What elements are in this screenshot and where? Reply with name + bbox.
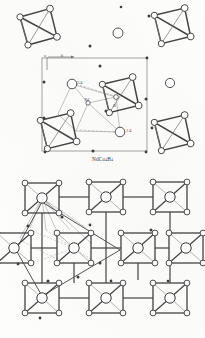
atom-b xyxy=(99,65,102,68)
atom-nd-isolated-right xyxy=(165,78,174,87)
cluster-mid-right xyxy=(150,111,194,155)
a-axis-label: a xyxy=(44,53,46,58)
atom-b xyxy=(145,151,148,154)
atom-b xyxy=(89,224,92,227)
cluster-r1-c1 xyxy=(118,230,158,266)
atom-b xyxy=(27,225,30,228)
atom-b xyxy=(151,127,154,130)
atom-b xyxy=(167,280,170,283)
atom-nd-three-quarter xyxy=(67,79,77,89)
panel-ceco4b4: a b Ce B CeCo4B4 xyxy=(0,168,205,338)
atom-b xyxy=(148,15,151,18)
caption-ndco4b4: NdCo4B4 xyxy=(0,156,205,162)
panel-ndco4b4: a b 3/4 1/4 Nd B NdCo4B4 xyxy=(0,0,205,168)
atom-b xyxy=(61,216,64,219)
cluster-r2-c2 xyxy=(150,280,190,316)
caption-ndco4b4-sub2: 4 xyxy=(111,158,113,162)
atom-b xyxy=(110,280,113,283)
atom-b xyxy=(43,81,46,84)
ndco4b4-diagram xyxy=(0,0,205,168)
atom-nd-isolated-upper xyxy=(113,28,123,38)
ceco4b4-diagram xyxy=(0,168,205,338)
cluster-cell-lower xyxy=(36,109,80,153)
b-axis-label: b xyxy=(61,53,63,58)
unit-cell-box xyxy=(42,58,147,151)
atom-b xyxy=(120,6,123,9)
atom-b xyxy=(150,229,153,232)
atom-b xyxy=(92,150,95,153)
atom-b xyxy=(99,262,102,265)
figure-canvas: a b 3/4 1/4 Nd B NdCo4B4 xyxy=(0,0,205,338)
cluster-r1-c2 xyxy=(166,230,205,266)
cluster-r0-c0 xyxy=(22,180,62,216)
atom-b xyxy=(39,317,42,320)
atom-b xyxy=(146,57,149,60)
cluster-r0-c1 xyxy=(86,179,126,215)
site-label-b: B xyxy=(113,103,116,108)
atom-nd-one-quarter xyxy=(115,127,125,137)
atom-b xyxy=(145,98,148,101)
caption-ndco4b4-main: NdCo xyxy=(92,156,105,162)
cluster-top-right xyxy=(150,4,194,48)
atom-b xyxy=(89,45,92,48)
atom-b xyxy=(47,280,50,283)
atom-co-junction xyxy=(114,95,119,100)
cluster-r1-cL xyxy=(0,230,34,266)
coordination-network xyxy=(58,84,120,132)
height-label-three-quarter: 3/4 xyxy=(77,80,83,85)
cluster-r2-c0 xyxy=(22,280,62,316)
cluster-top-left xyxy=(16,4,62,49)
atom-b xyxy=(77,276,80,279)
height-label-one-quarter: 1/4 xyxy=(126,128,132,133)
cluster-r1-c0 xyxy=(54,230,94,266)
site-label-nd: Nd xyxy=(84,97,89,102)
cluster-r0-c2 xyxy=(150,179,190,215)
cluster-r2-c1 xyxy=(86,280,126,316)
